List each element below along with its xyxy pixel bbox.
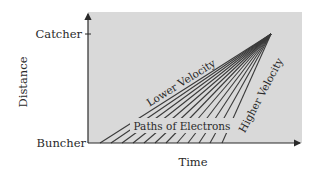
y-axis-label: Distance: [16, 56, 30, 107]
diagram-canvas: Catcher Buncher Distance Time Paths of E…: [0, 0, 315, 175]
x-axis-label: Time: [178, 155, 207, 169]
buncher-label: Buncher: [37, 136, 87, 150]
catcher-label: Catcher: [36, 27, 83, 41]
paths-of-electrons-label: Paths of Electrons: [134, 120, 231, 132]
